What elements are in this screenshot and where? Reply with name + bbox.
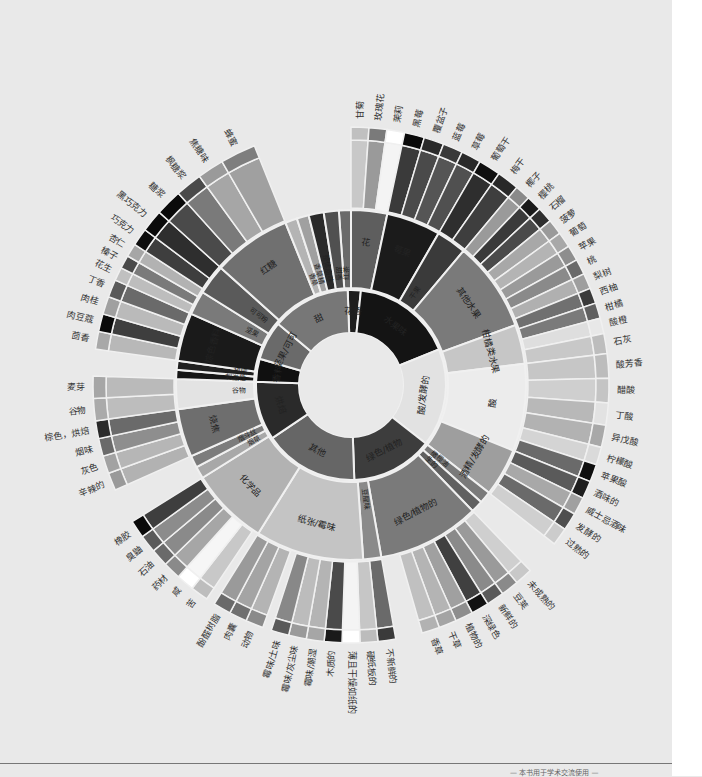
center-hole [299,333,403,437]
outer-segment-label: 蓝莓 [450,121,467,142]
outer-segment-tip [342,630,360,643]
outer-segment-label: 柑橘 [604,297,624,313]
outer-segment-tip [593,402,608,425]
outer-segment-label: 酸芳香 [616,357,644,370]
outer-segment-label: 丁酸 [615,410,634,422]
outer-segment-label: 臭鼬 [123,544,144,564]
outer-segment-label: 椰子 [523,169,543,190]
outer-segment-label: 柠檬酸 [605,452,634,470]
middle-segment-label: 甜香 [334,266,345,281]
outer-segment-label: 肉豆蔻 [66,308,95,325]
outer-segment-label: 麦芽 [67,381,85,392]
outer-segment-label: 发酵的 [574,520,603,544]
outer-segment-label: 薄且干燥如纸的 [347,651,358,714]
outer-segment-tip [324,629,342,643]
outer-segment-tip [93,376,106,399]
outer-segment-label: 霉味/潮湿 [302,648,318,688]
outer-segment-label: 茉莉 [391,104,405,124]
outer-segment-label: 棕色，烘焙 [44,425,90,444]
outer-segment-tip [377,626,396,641]
outer-segment-label: 霉味/灰尘味 [279,644,300,693]
outer-segment-label: 深绿色 [480,612,503,641]
outer-segment-label: 苹果 [576,234,597,253]
outer-segment-label: 葡萄 [567,220,588,239]
outer-segment-label: 枫糖浆 [163,153,189,181]
outer-segment-label: 糖浆 [147,180,168,201]
outer-segment-label: 玫瑰花 [372,93,386,121]
middle-segment-label: 花 [361,236,371,248]
outer-segment-label: 甘菊 [354,101,366,119]
outer-segment-label: 酒味的 [592,487,621,508]
outer-segment-tip [594,354,609,379]
middle-segment-label: 谷物 [232,385,246,395]
middle-segment-label: 胡椒 [232,366,247,377]
outer-segment [106,376,174,397]
outer-segment-label: 烟味 [74,443,94,458]
outer-segment-tip [351,127,369,141]
outer-segment-label: 豆荚 [511,591,531,612]
outer-segment-tip [595,378,609,403]
outer-segment-label: 橡胶 [112,528,133,547]
outer-segment-label: 醋酸 [617,384,635,395]
outer-segment-label: 葡萄干 [488,134,512,163]
outer-segment-label: 干草 [446,629,463,650]
outer-segment-tip [360,629,378,643]
outer-segment-label: 草莓 [469,131,487,152]
outer-segment-label: 苹果酸 [599,470,628,490]
outer-segment-label: 酚醛树脂 [194,612,222,649]
outer-segment-label: 焦糖味 [188,136,212,165]
outer-segment-label: 菠萝 [557,206,578,226]
page-margin [672,0,702,776]
outer-segment-label: 药材 [149,572,169,593]
outer-segment-label: 西柚 [598,281,619,298]
outer-segment-label: 咸 [169,585,183,599]
outer-segment-label: 石榴 [547,193,568,213]
outer-segment-tip [96,419,112,439]
outer-segment-label: 肉桂 [80,291,101,307]
outer-segment-tip [306,626,325,641]
outer-segment-label: 未成熟的 [526,578,558,612]
outer-segment-tip [93,398,108,421]
outer-segment-label: 木质的 [324,650,337,678]
outer-segment-label: 灰色 [79,461,100,477]
outer-segment-label: 酸橙 [608,314,628,329]
outer-segment-label: 霉味/土味 [261,639,282,680]
outer-segment-label: 不新鲜的 [384,648,400,685]
outer-segment-tip [591,334,607,356]
outer-segment-label: 樱桃 [535,180,556,200]
outer-segment-label: 异戊酸 [611,432,640,448]
outer-segment-label: 辛辣的 [77,479,106,499]
outer-segment-label: 香草 [429,636,445,657]
outer-segment-label: 石油 [136,558,157,578]
footer-rule [0,763,672,764]
outer-segment-label: 梅干 [508,156,528,177]
outer-segment-label: 覆盆子 [430,105,449,134]
outer-segment-label: 过熟的 [564,536,592,561]
outer-segment-label: 黑莓 [410,108,425,128]
outer-segment-label: 蜂蜜 [222,127,240,148]
footer-text: — 本书用于学术交流使用 — [510,767,598,777]
outer-segment-label: 新鲜的 [496,602,520,631]
outer-segment-label: 茴香 [71,330,90,343]
outer-segment-label: 石灰 [612,333,632,347]
outer-segment-tip [368,128,387,143]
middle-segment-label: 酸 [487,398,498,408]
outer-segment-label: 梨树 [592,265,613,282]
outer-segment-label: 动物 [239,629,256,650]
outer-segment-label: 谷物 [68,404,87,417]
outer-segment-label: 丁香 [86,274,106,290]
inner-segment-label: 花香 [344,305,362,317]
outer-segment-label: 肉囊 [221,621,239,642]
outer-segment-label: 硬纸板的 [365,650,378,687]
outer-segment-label: 植物的 [464,621,486,650]
outer-segment-label: 桃 [585,253,598,267]
outer-segment-label: 苦 [184,596,198,610]
outer-segment-label: 黑巧克力 [115,188,150,219]
